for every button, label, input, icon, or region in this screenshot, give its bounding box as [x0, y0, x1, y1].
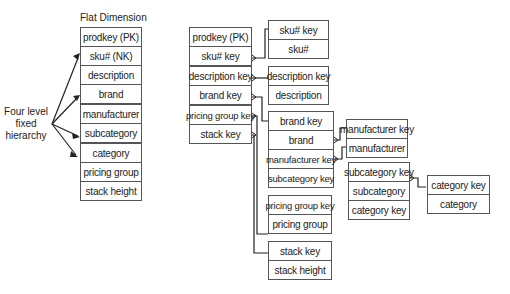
subcategory-row: subcategory key	[348, 162, 410, 182]
flat-row: description	[80, 65, 142, 85]
brand-row: manufacturer key	[268, 149, 334, 169]
flat-dimension-title: Flat Dimension	[80, 12, 147, 23]
brand-row: brand	[268, 130, 334, 150]
subcategory-row: category key	[348, 200, 410, 220]
manufacturer-row: manufacturer	[346, 138, 408, 158]
product-row: brand key	[189, 85, 252, 105]
flat-row: stack height	[80, 181, 142, 201]
sku-row: sku#	[268, 39, 329, 59]
product-row: sku# key	[189, 46, 252, 66]
flat-row: subcategory	[80, 123, 142, 143]
brand-row: subcategory key	[268, 168, 334, 188]
sku-row: sku# key	[268, 20, 329, 40]
product-row: prodkey (PK)	[189, 27, 252, 47]
product-row: pricing group key	[189, 105, 252, 125]
subcategory-row: subcategory	[348, 181, 410, 201]
flat-row: pricing group	[80, 162, 142, 182]
manufacturer-row: manufacturer key	[346, 119, 408, 139]
brand-row: brand key	[268, 111, 334, 131]
connector-lines	[0, 0, 510, 294]
category-row: category key	[427, 175, 490, 195]
stack-row: stack key	[268, 241, 332, 261]
description-row: description	[268, 85, 329, 105]
stack-row: stack height	[268, 260, 332, 280]
category-row: category	[427, 194, 490, 214]
flat-row: manufacturer	[80, 104, 142, 124]
flat-row: prodkey (PK)	[80, 27, 142, 47]
pricing-row: pricing group	[268, 214, 332, 234]
product-row: stack key	[189, 124, 252, 144]
flat-row: category	[80, 143, 142, 163]
flat-row: brand	[80, 84, 142, 104]
flat-row: sku# (NK)	[80, 46, 142, 66]
hierarchy-label: Four level fixed hierarchy	[2, 106, 50, 142]
product-row: description key	[189, 66, 252, 86]
pricing-row: pricing group key	[268, 195, 332, 215]
description-row: description key	[268, 66, 329, 86]
